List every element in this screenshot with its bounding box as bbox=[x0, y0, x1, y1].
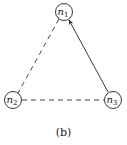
node-n1-sub: 1 bbox=[64, 11, 68, 19]
node-n2: n2 bbox=[5, 92, 22, 109]
node-n2-sub: 2 bbox=[13, 99, 17, 107]
edge-n3-n1-arrow bbox=[69, 20, 108, 92]
figure-caption: (b) bbox=[0, 126, 127, 139]
node-n1: n1 bbox=[56, 4, 73, 21]
edge-n1-n2 bbox=[18, 19, 59, 93]
node-n3-sub: 3 bbox=[113, 99, 117, 107]
graph-diagram: n1 n2 n3 bbox=[0, 0, 127, 145]
node-n3: n3 bbox=[105, 92, 122, 109]
